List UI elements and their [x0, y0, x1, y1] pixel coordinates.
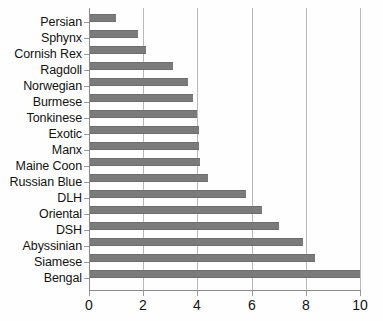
bar — [89, 46, 146, 54]
bar — [89, 174, 208, 182]
plot-area — [89, 8, 360, 290]
y-axis-label: Tonkinese — [27, 110, 82, 126]
x-axis-tick — [143, 291, 144, 296]
y-axis-label: Bengal — [44, 270, 82, 286]
x-axis-label: 4 — [177, 297, 217, 313]
bar — [89, 94, 193, 102]
bar — [89, 78, 188, 86]
y-axis-tick — [84, 54, 89, 55]
y-axis-label: Siamese — [34, 254, 82, 270]
bar — [89, 14, 116, 22]
y-axis-tick — [84, 214, 89, 215]
x-axis-label: 8 — [286, 297, 326, 313]
x-axis-label: 6 — [232, 297, 272, 313]
y-axis-label: Russian Blue — [10, 174, 82, 190]
y-axis-tick — [84, 70, 89, 71]
bar-chart: PersianSphynxCornish RexRagdollNorwegian… — [0, 0, 383, 321]
bar — [89, 110, 197, 118]
y-axis-label: Cornish Rex — [14, 46, 82, 62]
bar — [89, 238, 303, 246]
y-axis-tick — [84, 102, 89, 103]
y-axis-label: Oriental — [39, 206, 82, 222]
y-axis-tick — [84, 198, 89, 199]
y-axis-tick — [84, 86, 89, 87]
y-axis-label: Sphynx — [41, 30, 82, 46]
y-axis-label: Exotic — [49, 126, 82, 142]
x-axis-line — [89, 290, 361, 291]
y-axis-label: Abyssinian — [23, 238, 82, 254]
x-axis-tick — [89, 291, 90, 296]
y-axis-tick — [84, 134, 89, 135]
y-axis-labels: PersianSphynxCornish RexRagdollNorwegian… — [0, 14, 86, 288]
bar — [89, 206, 262, 214]
y-axis-label: Norwegian — [23, 78, 82, 94]
y-axis-label: Burmese — [33, 94, 82, 110]
y-axis-tick — [84, 230, 89, 231]
bars-layer — [89, 14, 360, 286]
bar — [89, 126, 199, 134]
y-axis-tick — [84, 118, 89, 119]
y-axis-label: DSH — [56, 222, 82, 238]
y-axis-label: Maine Coon — [16, 158, 82, 174]
y-axis-tick — [84, 150, 89, 151]
x-axis-tick — [252, 291, 253, 296]
y-axis-label: Manx — [52, 142, 82, 158]
gridline — [360, 8, 361, 290]
bar — [89, 30, 138, 38]
x-axis-tick — [360, 291, 361, 296]
y-axis-tick — [84, 166, 89, 167]
y-axis-label: DLH — [57, 190, 82, 206]
bar — [89, 158, 200, 166]
y-axis-label: Ragdoll — [40, 62, 82, 78]
y-axis-line — [89, 8, 90, 290]
x-axis-tick — [197, 291, 198, 296]
y-axis-tick — [84, 278, 89, 279]
bar — [89, 142, 199, 150]
x-axis-label: 0 — [69, 297, 109, 313]
bar — [89, 270, 360, 278]
bar — [89, 190, 246, 198]
y-axis-tick — [84, 246, 89, 247]
y-axis-tick — [84, 38, 89, 39]
x-axis-tick — [306, 291, 307, 296]
y-axis-tick — [84, 262, 89, 263]
x-axis-label: 10 — [340, 297, 380, 313]
y-axis-label: Persian — [40, 14, 82, 30]
y-axis-tick — [84, 182, 89, 183]
bar — [89, 254, 315, 262]
bar — [89, 222, 279, 230]
bar — [89, 62, 173, 70]
x-axis-label: 2 — [123, 297, 163, 313]
y-axis-tick — [84, 22, 89, 23]
